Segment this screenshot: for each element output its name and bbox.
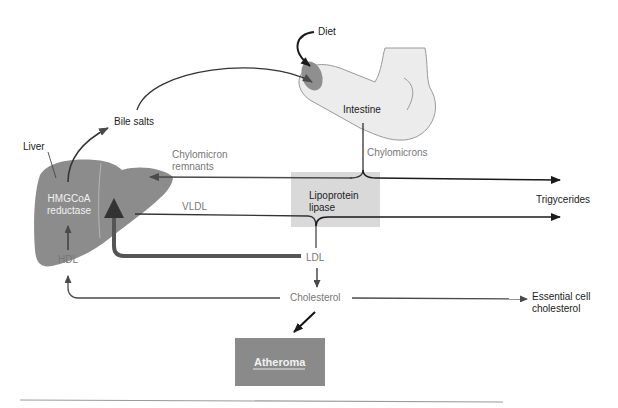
intestine-shape xyxy=(297,48,435,140)
hmgcoa-line2: reductase xyxy=(42,205,96,217)
cholesterol-to-essential-arrow xyxy=(352,298,527,299)
intestine-label: Intestine xyxy=(343,104,381,116)
cholesterol-to-hdl-arrow xyxy=(68,276,280,298)
hmgcoa-line1: HMGCoA xyxy=(42,193,96,205)
diet-to-intestine-arrow xyxy=(298,32,314,66)
hdl-label: HDL xyxy=(58,254,78,266)
essential-line2: cholesterol xyxy=(532,303,590,315)
chylomicrons-to-remnants-arrow xyxy=(150,177,352,178)
lipase-line1: Lipoprotein xyxy=(309,190,358,202)
liver-label: Liver xyxy=(23,141,45,153)
hmgcoa-reductase-label: HMGCoA reductase xyxy=(42,193,96,216)
bile-salts-label: Bile salts xyxy=(114,116,154,128)
triglycerides-label: Trigycerides xyxy=(536,194,590,206)
essential-cell-cholesterol-label: Essential cell cholesterol xyxy=(532,291,590,314)
cholesterol-label: Cholesterol xyxy=(290,292,341,304)
bottom-rule xyxy=(20,400,503,402)
chylomicron-remnants-label: Chylomicron remnants xyxy=(172,149,228,172)
lipoprotein-lipase-label: Lipoprotein lipase xyxy=(309,190,358,213)
atheroma-label: Atheroma xyxy=(254,356,305,369)
chylomicrons-stem xyxy=(350,123,363,178)
chylomicrons-label: Chylomicrons xyxy=(367,147,428,159)
cholesterol-to-atheroma-arrow xyxy=(294,312,315,332)
diet-label: Diet xyxy=(318,26,336,38)
ldl-label: LDL xyxy=(306,252,324,264)
vldl-label: VLDL xyxy=(182,201,207,213)
lipase-line2: lipase xyxy=(309,202,358,214)
essential-line1: Essential cell xyxy=(532,291,590,303)
chylomicron-remnants-line1: Chylomicron xyxy=(172,149,228,161)
chylomicron-remnants-line2: remnants xyxy=(172,161,228,173)
vldl-line xyxy=(135,214,316,226)
chylomicrons-to-triglycerides-arrow xyxy=(363,170,560,180)
ldl-to-liver-arrow xyxy=(114,215,301,256)
bile-salts-to-intestine-arrow xyxy=(137,68,312,110)
